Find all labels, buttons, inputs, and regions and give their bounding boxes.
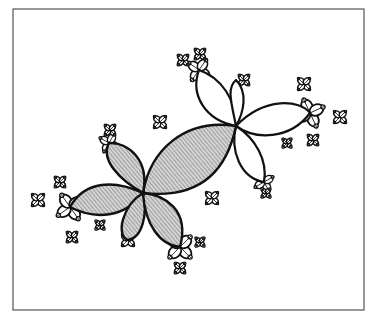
mid-top-petals [152,114,167,129]
fractal-canvas [0,0,374,320]
right-top-petals [296,76,311,91]
far-right-junction [309,112,311,114]
bottom-junction [179,246,181,248]
upper-right-junction [235,125,237,127]
center-bottom-petals [204,190,219,205]
top-left-small-petals [177,54,190,67]
upper-left-top-petals [104,124,117,137]
right-lower-petals [307,134,320,147]
main-lobe [143,125,236,194]
left-junction [69,206,71,208]
right-mid-small-petals [282,138,293,149]
left-top-petals [54,176,67,189]
lower-right-lobe [143,193,182,247]
julia-set-figure [0,0,374,320]
top-top-petals [194,48,207,61]
upper-left-junction [108,142,110,144]
right-bottom-bottom-petals [261,188,272,199]
bottom-right-petals [195,237,206,248]
bottom-bottom-petals [174,262,187,275]
right-bottom-junction [263,181,265,183]
top-junction [198,69,200,71]
right-end-petals [332,109,347,124]
far-left-petals [30,192,45,207]
left-mid-small-petals [95,220,106,231]
right-lobe [236,103,310,135]
left-bottom-petals [66,231,79,244]
center-junction [140,190,145,195]
